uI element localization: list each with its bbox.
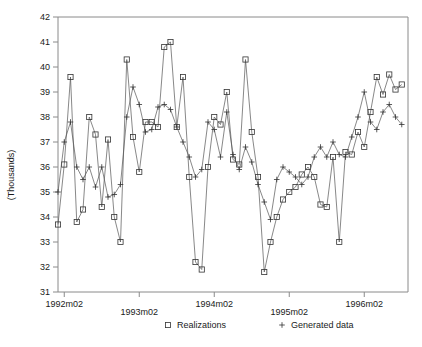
x-tick-label: 1993m02 xyxy=(120,307,158,317)
y-tick-label: 41 xyxy=(40,37,50,47)
y-tick-label: 38 xyxy=(40,112,50,122)
x-axis-ticks: 1992m021993m021994m021995m021996m02 xyxy=(45,292,383,317)
chart-legend: RealizationsGenerated data xyxy=(165,320,353,330)
series-realizations xyxy=(55,39,404,274)
y-tick-label: 36 xyxy=(40,162,50,172)
y-axis-title: (Thousands) xyxy=(6,150,16,201)
x-tick-label: 1992m02 xyxy=(45,299,83,309)
x-tick-label: 1995m02 xyxy=(270,307,308,317)
chart-container: 313233343536373839404142 1992m021993m021… xyxy=(0,0,422,347)
line-chart: 313233343536373839404142 1992m021993m021… xyxy=(0,0,422,347)
y-tick-label: 32 xyxy=(40,262,50,272)
y-tick-label: 34 xyxy=(40,212,50,222)
y-tick-label: 40 xyxy=(40,62,50,72)
y-tick-label: 42 xyxy=(40,12,50,22)
y-tick-label: 31 xyxy=(40,287,50,297)
y-tick-label: 39 xyxy=(40,87,50,97)
y-tick-label: 35 xyxy=(40,187,50,197)
legend-label: Realizations xyxy=(177,320,227,330)
y-tick-label: 33 xyxy=(40,237,50,247)
data-series-group xyxy=(55,39,404,274)
x-tick-label: 1994m02 xyxy=(195,299,233,309)
x-tick-label: 1996m02 xyxy=(345,299,383,309)
legend-label: Generated data xyxy=(291,320,354,330)
y-tick-label: 37 xyxy=(40,137,50,147)
y-axis-ticks: 313233343536373839404142 xyxy=(40,12,58,297)
